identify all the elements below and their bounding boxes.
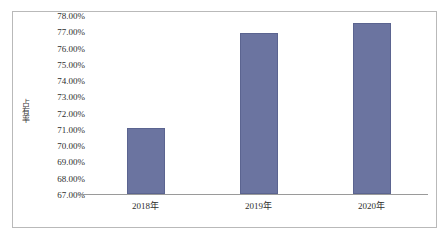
- chart-figure: 占有率 78.00%77.00%76.00%75.00%74.00%73.00%…: [12, 11, 437, 228]
- x-axis-tick-labels: 2018年2019年2020年: [89, 201, 428, 215]
- x-axis-tick-label: 2020年: [358, 201, 385, 212]
- bar: [353, 23, 391, 194]
- y-axis-tick-label: 69.00%: [57, 157, 85, 167]
- y-axis-tick-label: 76.00%: [57, 44, 85, 54]
- chart-surface: 占有率 78.00%77.00%76.00%75.00%74.00%73.00%…: [13, 12, 436, 227]
- y-axis-tick-label: 68.00%: [57, 174, 85, 184]
- x-axis-tick-label: 2018年: [132, 201, 159, 212]
- y-axis-tick-label: 70.00%: [57, 141, 85, 151]
- x-axis-tick-label: 2019年: [245, 201, 272, 212]
- y-axis-title: 占有率: [15, 88, 29, 134]
- bar: [240, 33, 278, 194]
- bar: [127, 128, 165, 194]
- y-axis-tick-label: 72.00%: [57, 109, 85, 119]
- y-axis-tick-label: 67.00%: [57, 190, 85, 200]
- plot-area: [89, 16, 428, 195]
- y-axis-tick-label: 74.00%: [57, 76, 85, 86]
- y-axis-tick-label: 78.00%: [57, 11, 85, 21]
- y-axis-tick-label: 73.00%: [57, 92, 85, 102]
- y-axis-tick-label: 71.00%: [57, 125, 85, 135]
- y-axis-tick-label: 77.00%: [57, 27, 85, 37]
- y-axis-tick-label: 75.00%: [57, 60, 85, 70]
- x-axis-line: [79, 194, 428, 195]
